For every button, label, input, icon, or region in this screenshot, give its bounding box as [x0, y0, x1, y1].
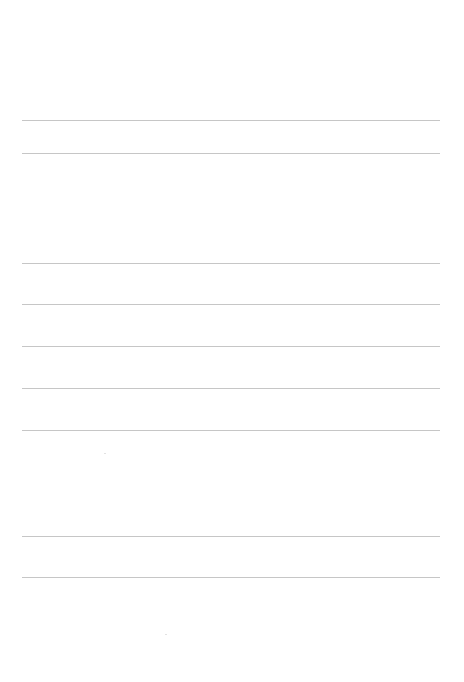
ruled-line: [22, 153, 440, 154]
paper-speck: [104, 453, 106, 454]
ruled-line: [22, 263, 440, 264]
ruled-line: [22, 346, 440, 347]
ruled-line: [22, 577, 440, 578]
lined-paper-page: [0, 0, 464, 682]
paper-speck: [165, 634, 167, 635]
ruled-line: [22, 430, 440, 431]
ruled-line: [22, 536, 440, 537]
ruled-line: [22, 388, 440, 389]
ruled-line: [22, 120, 440, 121]
ruled-line: [22, 304, 440, 305]
